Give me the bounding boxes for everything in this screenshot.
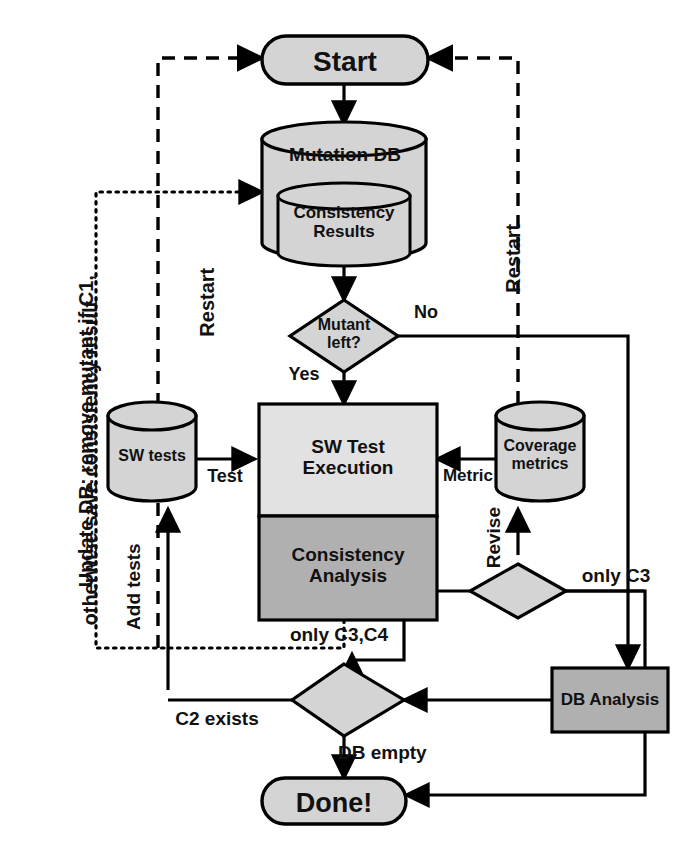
flowchart-diagram: Start Mutation DB Consistency Results Mu… (0, 0, 686, 851)
